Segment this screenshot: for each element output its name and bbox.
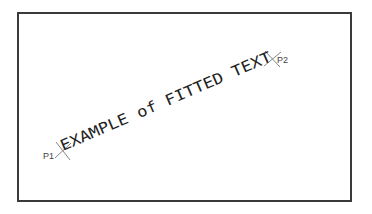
p1-label: P1 xyxy=(43,151,54,161)
fitted-text: EXAMPLE of FITTED TEXT xyxy=(57,48,274,155)
drawing-canvas: P1 P2 EXAMPLE of FITTED TEXT xyxy=(0,0,372,214)
p2-label: P2 xyxy=(277,55,288,65)
